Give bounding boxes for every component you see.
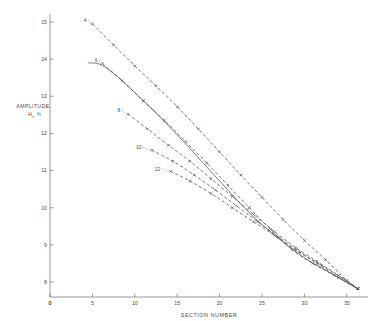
curve-label-6: 6 [95,57,98,63]
x-tick-label: 15 [174,300,180,306]
curve-label-leader-8 [122,110,126,114]
chart-figure: 05101520253035891011121314150SECTION NUM… [0,0,375,321]
y-axis-title: AMPLITUDE [16,103,49,109]
curve-label-8: 8 [118,107,121,113]
series-line-4 [92,24,357,289]
curve-label-leader-6 [99,60,101,64]
y-tick-label: 15 [41,19,47,25]
y-tick-label: 10 [41,205,47,211]
y-tick-label: 14 [41,56,47,62]
y-tick-label: 8 [44,279,47,285]
y-origin-label: 0 [49,300,52,306]
series-line-6 [103,64,358,289]
x-tick-label: 5 [91,300,94,306]
y-axis-symbol: Hsft [28,111,41,119]
curve-label-10: 10 [136,144,142,150]
y-tick-label: 11 [42,167,47,173]
amplitude-vs-section-chart: 05101520253035891011121314150SECTION NUM… [0,0,375,321]
series-line-12 [170,171,357,288]
x-tick-label: 25 [259,300,265,306]
y-tick-label: 9 [44,242,47,248]
x-axis-title: SECTION NUMBER [181,312,238,318]
y-tick-label: 13 [41,93,47,99]
curve-label-leader-12 [162,169,169,172]
series-line-theoretical [88,63,358,289]
x-tick-label: 30 [302,300,308,306]
curve-label-leader-4 [88,20,90,24]
x-tick-label: 20 [217,300,223,306]
x-tick-label: 10 [132,300,138,306]
x-tick-label: 35 [344,300,350,306]
curve-label-12: 12 [155,166,161,172]
curve-label-leader-10 [143,148,150,151]
curve-label-4: 4 [84,17,87,23]
y-tick-label: 12 [41,130,47,136]
